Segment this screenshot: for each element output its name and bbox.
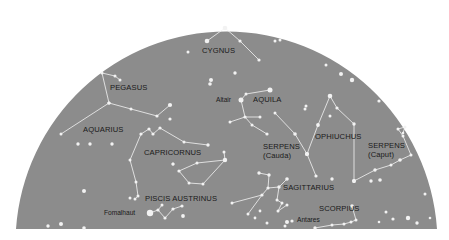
star-aquarius — [76, 142, 79, 145]
star-pegasus — [101, 72, 104, 75]
star-ophiuchus — [316, 123, 320, 127]
star-sagittarius — [267, 173, 270, 176]
star-cygnus — [238, 39, 241, 42]
star-ophiuchus — [328, 94, 333, 99]
star-serpens-caput — [404, 126, 407, 129]
star — [429, 217, 432, 220]
star-sagittarius — [247, 213, 250, 216]
star-cygnus — [257, 58, 260, 61]
star-pegasus — [155, 114, 158, 117]
star — [329, 115, 332, 118]
star-serpens-caput — [352, 179, 356, 183]
star — [274, 40, 277, 43]
star-capricornus — [183, 141, 186, 144]
star-sagittarius — [266, 222, 269, 225]
constellation-label-pegasus: PEGASUS — [110, 83, 147, 92]
star-cygnus — [205, 39, 210, 44]
star — [305, 105, 308, 108]
star-aquila — [268, 88, 273, 93]
star-pegasus — [114, 75, 117, 78]
star-aquila — [245, 93, 248, 96]
star-piscis-austrinus — [161, 204, 164, 207]
star-capricornus — [129, 197, 132, 200]
star — [406, 216, 410, 220]
star-pegasus — [130, 108, 133, 111]
star-capricornus-b — [223, 158, 227, 162]
star — [46, 224, 49, 227]
star-scorpius — [313, 226, 316, 229]
star — [279, 39, 282, 42]
star-sagittarius — [285, 177, 289, 181]
star — [350, 78, 354, 82]
star-scorpius — [355, 219, 358, 222]
star-label-antares: Antares — [297, 216, 320, 223]
star-capricornus — [139, 132, 142, 135]
star-capricornus-b — [196, 162, 199, 165]
star-piscis-austrinus — [163, 216, 166, 219]
star-serpens-caput — [397, 128, 400, 131]
star-sagittarius — [257, 171, 260, 174]
star-aquarius — [88, 142, 91, 145]
constellation-label-aquarius: AQUARIUS — [83, 125, 123, 134]
star-capricornus-b — [223, 151, 226, 154]
constellation-label-piscis-austrinus: PISCIS AUSTRINUS — [145, 194, 217, 203]
star-aquila — [259, 116, 262, 119]
star-serpens-cauda — [274, 112, 277, 115]
constellation-label-capricornus: CAPRICORNUS — [144, 148, 201, 157]
constellation-label-cygnus: CYGNUS — [202, 46, 235, 55]
star — [59, 222, 63, 226]
star-scorpius — [290, 219, 293, 222]
star-aquarius — [107, 101, 110, 104]
star-sagittarius — [231, 202, 234, 205]
star-piscis-austrinus — [171, 207, 174, 210]
star-pegasus — [168, 103, 172, 107]
star — [168, 117, 171, 120]
star — [233, 71, 236, 74]
star-sagittarius — [277, 210, 280, 213]
star-capricornus — [134, 198, 137, 201]
star-serpens-caput — [410, 154, 413, 157]
star-sagittarius — [260, 193, 263, 196]
star-serpens-cauda — [314, 174, 317, 177]
star-scorpius — [350, 221, 353, 224]
star-sagittarius — [277, 185, 280, 188]
star-capricornus — [137, 195, 140, 198]
star-sagittarius — [254, 217, 257, 220]
star-serpens-caput — [373, 168, 376, 171]
star-scorpius — [343, 223, 346, 226]
star-sagittarius — [276, 199, 279, 202]
star-scorpius — [284, 225, 287, 228]
star-sagittarius — [266, 186, 269, 189]
star — [339, 72, 343, 76]
star-sagittarius — [259, 210, 262, 213]
star-capricornus-b — [202, 183, 205, 186]
star-capricornus-b — [177, 169, 180, 172]
star-piscis-austrinus — [147, 210, 153, 216]
star — [208, 82, 212, 86]
star-serpens-caput — [402, 132, 405, 135]
constellation-label-aquila: AQUILA — [253, 95, 282, 104]
star-capricornus — [151, 132, 154, 135]
star-sagittarius — [281, 202, 284, 205]
star-pegasus — [119, 79, 122, 82]
star-chart: CYGNUSPEGASUSAQUARIUSCAPRICORNUSPISCIS A… — [0, 0, 449, 240]
star-label-altair: Altair — [216, 96, 232, 103]
star-serpens-caput — [402, 135, 405, 138]
star-sagittarius — [286, 204, 289, 207]
star — [172, 163, 175, 166]
star-ophiuchus — [352, 122, 355, 125]
star-aquila — [243, 115, 246, 118]
star-serpens-cauda — [293, 132, 297, 136]
star-capricornus — [135, 181, 138, 184]
star-capricornus — [147, 127, 150, 130]
star-piscis-austrinus — [180, 204, 183, 207]
star — [391, 217, 394, 220]
star — [415, 221, 418, 224]
star-capricornus — [129, 159, 132, 162]
star — [385, 211, 388, 214]
star-piscis-austrinus — [156, 208, 159, 211]
constellation-label-sagittarius: SAGITTARIUS — [283, 183, 334, 192]
constellation-label-ophiuchus: OPHIUCHUS — [315, 132, 361, 141]
star-aquila — [239, 98, 244, 103]
star-ophiuchus — [335, 106, 338, 109]
